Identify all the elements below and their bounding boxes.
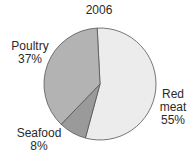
label-poultry-pct: 37% (8, 53, 52, 66)
chart-title: 2006 (84, 4, 114, 17)
label-red-meat-pct: 55% (156, 114, 190, 127)
label-poultry: Poultry 37% (8, 40, 52, 66)
label-red-meat: Red meat 55% (156, 88, 190, 127)
pie-slices (44, 28, 156, 140)
label-seafood-pct: 8% (14, 140, 64, 153)
label-seafood: Seafood 8% (14, 127, 64, 153)
